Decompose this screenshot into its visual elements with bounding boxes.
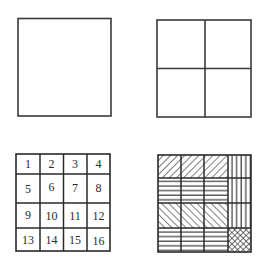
cell-number: 9	[16, 209, 40, 221]
cell-number: 12	[87, 210, 110, 222]
cell-number: 6	[40, 181, 63, 193]
cell-number: 4	[87, 158, 110, 170]
cell-number: 1	[16, 158, 40, 170]
cell-number: 13	[16, 234, 40, 246]
cell-number: 10	[40, 210, 63, 222]
cell-number: 5	[16, 183, 40, 195]
patterned-grid	[158, 155, 251, 252]
cell-number: 3	[63, 158, 87, 170]
cell-number: 8	[87, 182, 110, 194]
quartered-square	[157, 20, 251, 117]
cell-number: 14	[40, 234, 63, 246]
cell-number: 11	[63, 210, 87, 222]
cell-number: 15	[63, 234, 87, 246]
cell-number: 16	[87, 235, 110, 247]
cell-number: 7	[63, 182, 87, 194]
whole-square	[18, 19, 111, 117]
diagram-canvas	[0, 0, 266, 268]
cell-number: 2	[40, 158, 63, 170]
